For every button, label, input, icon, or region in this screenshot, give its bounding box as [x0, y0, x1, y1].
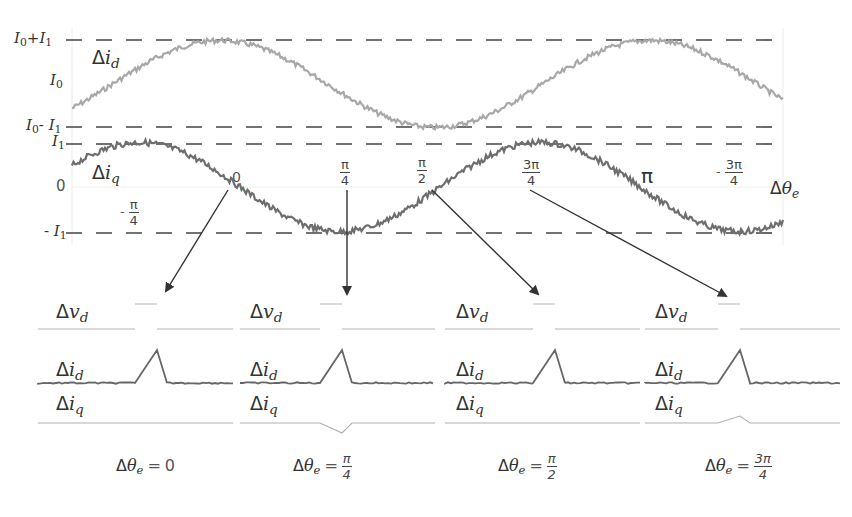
label-zero: 0	[56, 177, 66, 195]
fraction-numerator: π	[129, 198, 139, 213]
fraction-denominator: 4	[527, 173, 535, 187]
var-sub: q	[75, 401, 84, 417]
delta-symbol: Δ	[250, 300, 263, 322]
panel-caption: Δθe=3π4	[705, 452, 772, 481]
var-sub: d	[75, 367, 84, 383]
axis-label-delta-theta-e: Δθe	[770, 180, 799, 200]
equals-sign: =	[736, 456, 749, 475]
curve-label-delta-id: Δid	[92, 48, 120, 71]
pulse-response-traces	[38, 304, 840, 433]
panel-label-delta-iq: Δiq	[456, 394, 484, 417]
panel-caption: Δθe=π2	[498, 452, 557, 481]
fraction-denominator: 4	[759, 467, 767, 481]
equals-sign: =	[529, 456, 542, 475]
var-sub: e	[792, 187, 799, 201]
delta-symbol: Δ	[116, 456, 127, 475]
var-symbol: v	[668, 300, 679, 322]
var-sub: e	[519, 463, 526, 477]
angle-tick-3pi-4: 3π4	[522, 158, 540, 187]
panel-label-delta-vd: Δvd	[456, 302, 489, 325]
fraction: 3π4	[725, 158, 743, 187]
arrow-0	[166, 190, 228, 291]
delta-symbol: Δ	[705, 456, 716, 475]
label-sub: 0	[20, 36, 27, 49]
label-sub: 1	[60, 229, 67, 242]
var-symbol: θ	[782, 178, 792, 198]
delta-symbol: Δ	[92, 46, 105, 68]
var-symbol: v	[69, 300, 80, 322]
arrow-pi-2	[432, 190, 538, 294]
level-label-minus-I1: - I1	[44, 224, 67, 242]
level-label-I0-plus-I1: I0+I1	[14, 31, 52, 49]
panel-label-delta-id: Δid	[250, 360, 278, 383]
tick-sign: -	[716, 164, 725, 179]
curve-label-delta-iq: Δiq	[92, 163, 120, 186]
fraction-numerator: π	[342, 452, 352, 467]
var-sub: d	[111, 55, 120, 71]
trace-delta-iq	[240, 423, 435, 433]
fraction-numerator: π	[340, 158, 350, 173]
fraction-denominator: 4	[130, 213, 138, 227]
angle-tick-minus-3pi-4: - 3π4	[716, 158, 743, 187]
fraction-denominator: 4	[730, 173, 738, 187]
equals-sign: =	[147, 456, 160, 475]
level-label-I1: I1	[52, 134, 65, 152]
var-symbol: v	[263, 300, 274, 322]
label-op: -	[39, 116, 49, 134]
fraction-numerator: π	[417, 156, 427, 171]
angle-tick-pi-4: π4	[340, 158, 350, 187]
delta-symbol: Δ	[456, 392, 469, 414]
fraction: π4	[129, 198, 139, 227]
var-sub: d	[80, 309, 89, 325]
delta-symbol: Δ	[770, 178, 782, 198]
fraction: 3π4	[754, 452, 772, 481]
fraction-numerator: 3π	[522, 158, 540, 173]
panel-label-delta-iq: Δiq	[250, 394, 278, 417]
var-sub: q	[269, 401, 278, 417]
delta-symbol: Δ	[655, 392, 668, 414]
reference-dashed-lines	[66, 40, 783, 233]
delta-symbol: Δ	[92, 161, 105, 183]
var-sub: d	[679, 309, 688, 325]
panel-label-delta-vd: Δvd	[655, 302, 688, 325]
fraction: π4	[342, 452, 352, 481]
fraction-denominator: 2	[548, 467, 556, 481]
diagram-canvas	[0, 0, 852, 517]
panel-caption: Δθe=π4	[293, 452, 352, 481]
var-sub: d	[475, 367, 484, 383]
fraction: π2	[417, 156, 427, 185]
fraction-numerator: π	[547, 452, 557, 467]
var-sub: d	[269, 367, 278, 383]
delta-symbol: Δ	[456, 358, 469, 380]
arrow-3pi-4	[530, 190, 726, 296]
angle-tick-minus-pi-4: - π4	[120, 198, 139, 227]
var-symbol: θ	[509, 456, 519, 475]
var-sub: e	[314, 463, 321, 477]
delta-symbol: Δ	[293, 456, 304, 475]
panel-caption: Δθe=0	[116, 458, 175, 477]
delta-id-waveform	[72, 38, 783, 129]
tick-value: 0	[232, 169, 241, 185]
tick-sign: -	[120, 204, 129, 219]
delta-symbol: Δ	[456, 300, 469, 322]
label-op: -	[44, 222, 54, 240]
panel-label-delta-vd: Δvd	[250, 302, 283, 325]
panel-label-delta-iq: Δiq	[655, 394, 683, 417]
var-sub: e	[137, 463, 144, 477]
label-sub: 1	[58, 139, 65, 152]
delta-symbol: Δ	[250, 392, 263, 414]
label-sub: 1	[45, 36, 52, 49]
angle-tick-0: 0	[232, 170, 241, 184]
var-symbol: θ	[304, 456, 314, 475]
panel-label-delta-id: Δid	[456, 360, 484, 383]
var-sub: q	[111, 170, 120, 186]
delta-symbol: Δ	[655, 300, 668, 322]
var-sub: d	[480, 309, 489, 325]
label-sub: 0	[56, 78, 63, 91]
var-symbol: θ	[716, 456, 726, 475]
delta-symbol: Δ	[250, 358, 263, 380]
var-sub: d	[274, 309, 283, 325]
panel-label-delta-id: Δid	[56, 360, 84, 383]
var-sub: q	[674, 401, 683, 417]
panel-label-delta-iq: Δiq	[56, 394, 84, 417]
